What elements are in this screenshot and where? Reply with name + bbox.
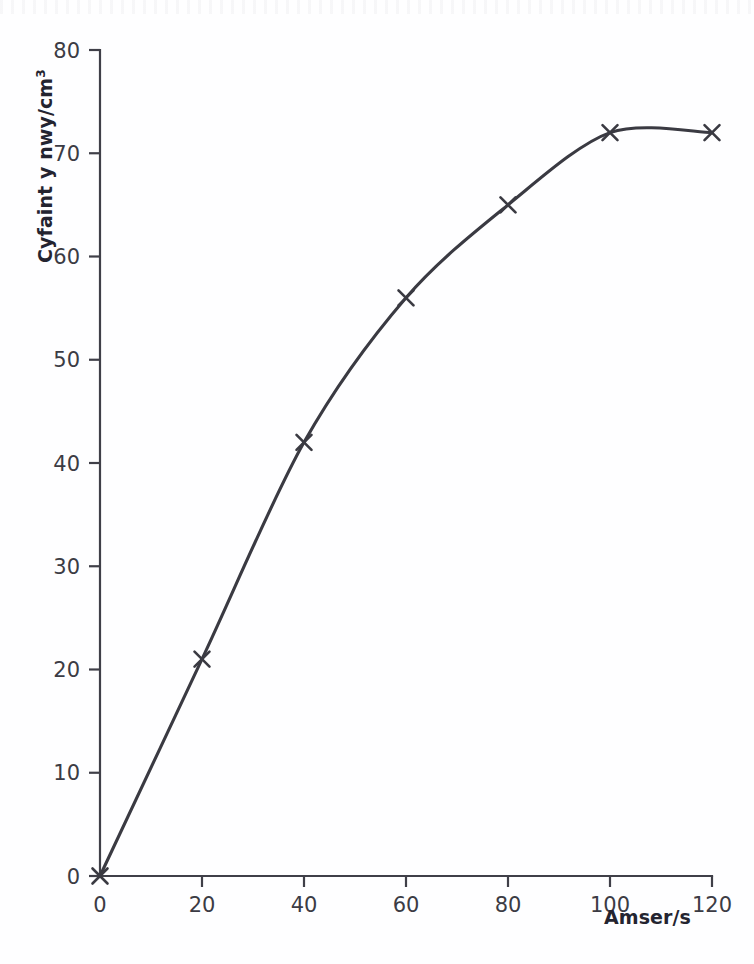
y-tick-label: 30 (53, 555, 80, 579)
x-axis-title: Amser/s (604, 906, 691, 928)
y-axis-title-text: Cyfaint y nwy/cm (34, 78, 56, 263)
y-tick-label: 60 (53, 245, 80, 269)
y-axis-title: Cyfaint y nwy/cm3 (34, 69, 56, 263)
y-axis-ticks: 01020304050607080 (53, 39, 100, 889)
data-point-marker (399, 290, 414, 305)
y-tick-label: 50 (53, 348, 80, 372)
data-point-markers (93, 125, 720, 883)
chart-figure: 01020304050607080 020406080100120 Cyfain… (0, 0, 754, 964)
data-point-marker (297, 435, 312, 450)
y-tick-label: 20 (53, 658, 80, 682)
x-tick-label: 80 (495, 893, 522, 917)
data-point-marker (501, 197, 516, 212)
data-series-line (100, 128, 712, 876)
y-axis-title-superscript: 3 (34, 69, 48, 77)
y-tick-label: 10 (53, 761, 80, 785)
data-point-marker (195, 652, 210, 667)
axis-lines (100, 50, 712, 876)
x-tick-label: 20 (189, 893, 216, 917)
y-tick-label: 70 (53, 142, 80, 166)
line-chart-plot: 01020304050607080 020406080100120 (0, 0, 754, 964)
y-tick-label: 40 (53, 452, 80, 476)
x-tick-label: 40 (291, 893, 318, 917)
x-tick-label: 0 (93, 893, 106, 917)
y-tick-label: 0 (67, 865, 80, 889)
x-tick-label: 120 (692, 893, 732, 917)
x-tick-label: 60 (393, 893, 420, 917)
y-tick-label: 80 (53, 39, 80, 63)
